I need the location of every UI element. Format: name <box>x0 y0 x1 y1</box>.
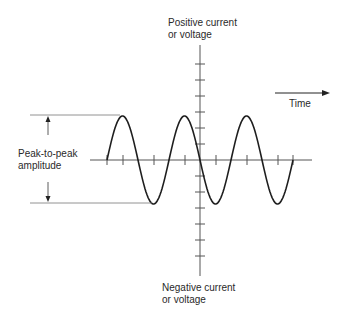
negative-label: Negative current or voltage <box>162 282 235 306</box>
positive-label-line2: or voltage <box>168 29 237 41</box>
negative-label-line1: Negative current <box>162 282 235 294</box>
positive-label: Positive current or voltage <box>168 17 237 41</box>
time-label: Time <box>289 98 311 110</box>
positive-label-line1: Positive current <box>168 17 237 29</box>
negative-label-line2: or voltage <box>162 294 235 306</box>
amplitude-label-line1: Peak-to-peak <box>18 148 77 160</box>
amplitude-label-line2: amplitude <box>18 160 77 172</box>
amplitude-label: Peak-to-peak amplitude <box>18 148 77 172</box>
